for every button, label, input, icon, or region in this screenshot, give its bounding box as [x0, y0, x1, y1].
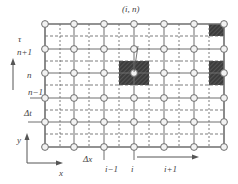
finite-difference-grid: (i, n) τ n+1 n n−1 Δt y x Δx i−1 i i+1	[0, 0, 238, 184]
delta-x-label: Δx	[82, 154, 92, 164]
grid-node-icon	[221, 95, 228, 102]
col-label-i-plus-1: i+1	[164, 164, 177, 174]
col-label-i-minus-1: i−1	[105, 164, 118, 174]
grid-node-icon	[101, 70, 108, 77]
grid-node-icon	[221, 46, 228, 53]
grid-node-icon	[131, 46, 138, 53]
grid-node-icon	[131, 95, 138, 102]
axis-x-label: x	[58, 168, 63, 178]
grid-node-icon	[131, 144, 138, 151]
grid-node-icon	[71, 46, 78, 53]
row-label-n-plus-1: n+1	[17, 47, 32, 57]
grid-node-icon	[131, 119, 138, 126]
grid-node-icon	[221, 21, 228, 28]
grid-node-icon	[161, 70, 168, 77]
grid-node-icon	[42, 46, 49, 53]
grid-node-icon	[101, 95, 108, 102]
grid-node-icon	[71, 70, 78, 77]
grid-node-icon	[191, 21, 198, 28]
grid-node-icon	[42, 144, 49, 151]
node-callout-label: (i, n)	[122, 4, 140, 14]
grid-node-icon	[101, 21, 108, 28]
grid-node-icon	[101, 119, 108, 126]
grid-node-icon	[221, 70, 228, 77]
grid-node-icon	[42, 119, 49, 126]
grid-node-icon	[191, 119, 198, 126]
grid-node-icon	[131, 21, 138, 28]
time-arrow-icon	[11, 58, 16, 90]
grid-node-icon	[71, 144, 78, 151]
grid-node-icon	[191, 70, 198, 77]
axis-y-label: y	[16, 135, 21, 145]
grid-node-icon	[161, 46, 168, 53]
grid-node-icon	[161, 21, 168, 28]
i-direction-arrow-icon	[137, 155, 199, 160]
grid-node-icon	[42, 21, 49, 28]
grid-node-icon	[71, 119, 78, 126]
grid-node-icon	[191, 144, 198, 151]
grid-node-icon	[42, 70, 49, 77]
grid-node-icon	[191, 95, 198, 102]
grid-node-icon	[191, 46, 198, 53]
time-axis-label: τ	[18, 34, 22, 44]
grid-node-icon	[101, 144, 108, 151]
grid-node-icon	[161, 95, 168, 102]
col-label-i: i	[131, 164, 134, 174]
row-label-n: n	[27, 70, 32, 80]
grid-node-icon	[101, 46, 108, 53]
delta-t-label: Δt	[23, 108, 32, 118]
grid-node-icon	[71, 95, 78, 102]
grid-node-icon	[221, 119, 228, 126]
grid-node-icon	[161, 144, 168, 151]
row-label-n-minus-1: n−1	[28, 87, 43, 97]
grid-node-icon	[71, 21, 78, 28]
solid-grid-lines	[45, 24, 224, 147]
grid-node-icon	[221, 144, 228, 151]
grid-node-icon	[161, 119, 168, 126]
